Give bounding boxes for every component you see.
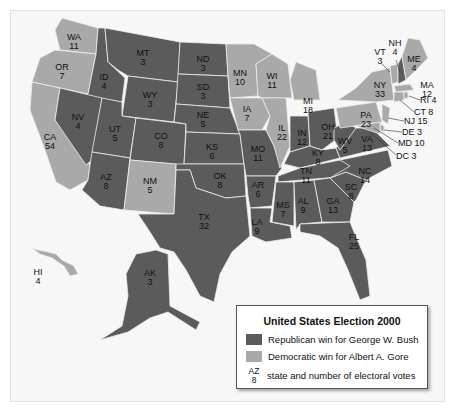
legend: United States Election 2000 Republican w… [236, 305, 428, 389]
example-label: state and number of electoral votes [267, 370, 415, 381]
label-nj: NJ 15 [404, 117, 428, 126]
label-dc: DC 3 [396, 152, 417, 161]
example-marker: AZ 8 [246, 367, 262, 384]
democratic-swatch [246, 351, 262, 362]
legend-republican: Republican win for George W. Bush [246, 334, 419, 345]
democratic-label: Democratic win for Albert A. Gore [268, 351, 408, 362]
label-de: DE 3 [402, 128, 422, 137]
label-ri: RI 4 [420, 96, 437, 105]
legend-example: AZ 8 state and number of electoral votes [246, 367, 415, 384]
legend-democratic: Democratic win for Albert A. Gore [246, 351, 408, 362]
label-md: MD 10 [398, 139, 425, 148]
legend-title: United States Election 2000 [237, 315, 427, 327]
republican-label: Republican win for George W. Bush [268, 334, 419, 345]
republican-swatch [246, 334, 262, 345]
